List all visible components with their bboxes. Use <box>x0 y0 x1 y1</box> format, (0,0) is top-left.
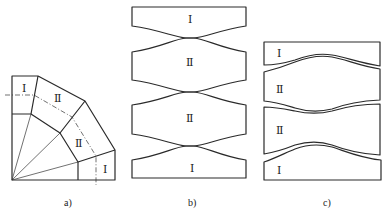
label-c-seg2: Ⅱ <box>276 83 283 95</box>
panel-a-elbow: Ⅰ Ⅱ Ⅱ Ⅰ a) <box>5 76 115 209</box>
label-a-seg1: Ⅰ <box>22 82 26 94</box>
panel-c-layout: Ⅰ Ⅱ Ⅱ Ⅰ c) <box>264 42 381 209</box>
radial-line-1 <box>12 114 31 180</box>
caption-b: b) <box>188 197 196 209</box>
piece-b-4 <box>132 146 246 178</box>
label-c-seg4: Ⅰ <box>277 164 281 176</box>
radial-line-3 <box>12 162 78 180</box>
label-b-seg2: Ⅱ <box>186 56 193 68</box>
panel-b-layout: Ⅰ Ⅱ Ⅱ Ⅰ b) <box>132 7 246 209</box>
radial-line-2 <box>12 133 60 180</box>
label-c-seg1: Ⅰ <box>277 47 281 59</box>
piece-c-1 <box>264 42 380 66</box>
label-c-seg3: Ⅱ <box>276 124 283 136</box>
label-b-seg3: Ⅱ <box>186 112 193 124</box>
label-a-seg2: Ⅱ <box>54 92 61 104</box>
caption-a: a) <box>64 197 72 209</box>
label-b-seg4: Ⅰ <box>190 162 194 174</box>
segment-divider-2 <box>31 101 85 133</box>
caption-c: c) <box>323 197 331 209</box>
label-a-seg4: Ⅰ <box>103 163 107 175</box>
label-b-seg1: Ⅰ <box>188 13 192 25</box>
label-a-seg3: Ⅱ <box>75 137 82 149</box>
figure-canvas: Ⅰ Ⅱ Ⅱ Ⅰ a) Ⅰ Ⅱ Ⅱ Ⅰ b) Ⅰ Ⅱ Ⅱ Ⅰ c) <box>0 0 386 217</box>
